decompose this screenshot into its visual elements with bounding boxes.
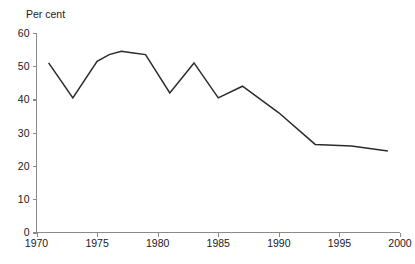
y-tick-label: 60 — [18, 27, 30, 39]
x-axis-tick-labels: 1970197519801985199019952000 — [25, 237, 412, 249]
y-tick-label: 10 — [18, 193, 30, 205]
x-tick-label: 2000 — [388, 237, 412, 249]
y-axis-tick-labels: 0102030405060 — [18, 27, 30, 239]
y-tick-label: 30 — [18, 127, 30, 139]
line-chart: Per cent 0102030405060 19701975198019851… — [0, 0, 415, 264]
x-tick-label: 1970 — [25, 237, 49, 249]
x-tick-label: 1990 — [267, 237, 291, 249]
y-axis-title: Per cent — [26, 8, 65, 20]
x-tick-label: 1975 — [85, 237, 109, 249]
x-tick-label: 1985 — [207, 237, 231, 249]
chart-container: Per cent 0102030405060 19701975198019851… — [0, 0, 415, 264]
x-tick-label: 1995 — [328, 237, 352, 249]
data-series-line — [49, 51, 388, 151]
x-tick-label: 1980 — [146, 237, 170, 249]
y-tick-label: 40 — [18, 93, 30, 105]
y-tick-label: 50 — [18, 60, 30, 72]
y-tick-label: 20 — [18, 160, 30, 172]
